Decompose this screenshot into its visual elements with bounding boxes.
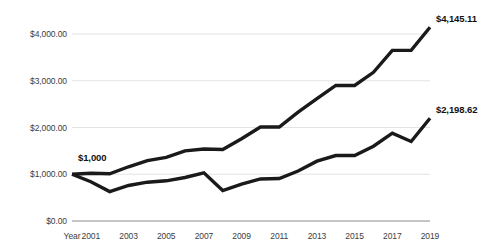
line-chart: $4,000.00$3,000.00$2,000.00$1,000.00$0.0… [0, 0, 489, 252]
series-line-lower [72, 118, 430, 191]
y-axis-tick-label: $2,000.00 [30, 123, 67, 133]
x-axis-tick-label: 2005 [146, 231, 186, 241]
chart-plot-area [0, 0, 489, 252]
x-axis-tick-label: 2017 [372, 231, 412, 241]
data-series-group [72, 27, 430, 191]
upper-series-end-label: $4,145.11 [436, 13, 477, 24]
x-axis-tick-label: 2011 [259, 231, 299, 241]
gridlines [72, 34, 430, 174]
x-axis-tick-label: 2003 [109, 231, 149, 241]
x-axis-tick-label: 2001 [71, 231, 111, 241]
y-axis-tick-label: $3,000.00 [30, 76, 67, 86]
y-axis-tick-label: $1,000.00 [30, 169, 67, 179]
lower-series-end-label: $2,198.62 [436, 104, 477, 115]
y-axis-tick-label: $4,000.00 [30, 29, 67, 39]
series-line-upper [72, 27, 430, 174]
x-axis-tick-label: 2015 [335, 231, 375, 241]
x-axis-tick-label: 2009 [222, 231, 262, 241]
start-value-label: $1,000 [78, 152, 106, 163]
x-axis-tick-label: 2007 [184, 231, 224, 241]
y-axis-tick-label: $0.00 [46, 216, 67, 226]
x-axis-tick-label: 2013 [297, 231, 337, 241]
x-axis-tick-label: 2019 [410, 231, 450, 241]
